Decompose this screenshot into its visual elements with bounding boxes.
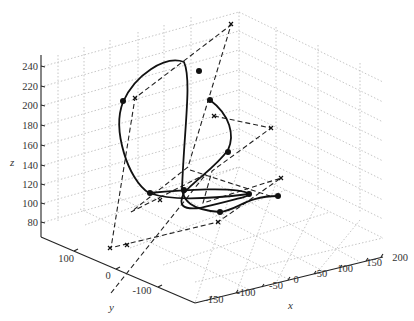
svg-text:-150: -150	[204, 294, 223, 305]
grid-lines	[44, 12, 383, 303]
svg-text:200: 200	[22, 100, 38, 111]
svg-text:100: 100	[58, 253, 74, 264]
svg-text:-100: -100	[236, 287, 255, 298]
svg-text:80: 80	[28, 217, 39, 228]
svg-text:220: 220	[22, 81, 38, 92]
z-axis-ticks: 240 220 200 180 160 140 120 100 80	[22, 61, 45, 228]
svg-text:-100: -100	[132, 285, 151, 296]
y-axis-line	[41, 237, 195, 303]
svg-text:120: 120	[22, 179, 38, 190]
svg-text:0: 0	[105, 270, 110, 281]
x-axis-label: x	[287, 299, 293, 311]
svg-text:240: 240	[22, 61, 38, 72]
svg-text:180: 180	[22, 120, 38, 131]
x-axis-ticks: -150 -100 -50 0 50 100 150 200	[204, 252, 408, 305]
y-axis-ticks: 100 0 -100	[58, 249, 162, 296]
svg-text:100: 100	[22, 198, 38, 209]
svg-text:0: 0	[293, 274, 298, 285]
axes-frame	[41, 55, 383, 303]
svg-text:-50: -50	[269, 280, 283, 291]
svg-text:50: 50	[317, 268, 328, 279]
svg-text:150: 150	[366, 257, 382, 268]
svg-text:140: 140	[22, 160, 38, 171]
control-polygon	[108, 22, 283, 293]
y-axis-label: y	[108, 301, 114, 313]
3d-plot: 240 220 200 180 160 140 120 100 80 z 100…	[0, 0, 414, 321]
svg-text:100: 100	[337, 263, 353, 274]
svg-text:200: 200	[392, 252, 408, 263]
z-axis-label: z	[9, 156, 15, 168]
svg-text:160: 160	[22, 140, 38, 151]
